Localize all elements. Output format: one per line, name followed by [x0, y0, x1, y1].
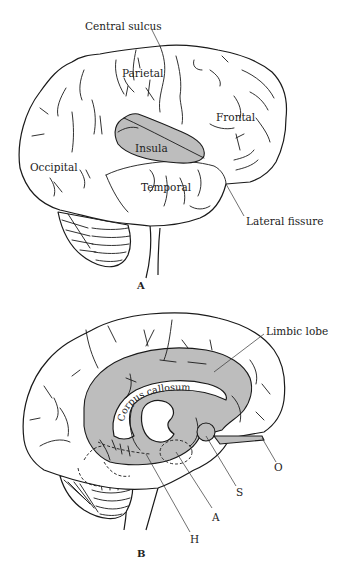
brainstem: [146, 225, 160, 278]
septum-circle: [197, 423, 215, 441]
lateral-brain-drawing: [0, 0, 337, 290]
label-occipital: Occipital: [30, 162, 78, 173]
label-limbic-lobe: Limbic lobe: [266, 326, 328, 337]
label-frontal: Frontal: [216, 112, 255, 123]
label-a: A: [212, 512, 220, 523]
label-central-sulcus: Central sulcus: [85, 21, 162, 32]
thalamus-area: [141, 400, 174, 442]
central-sulcus-leader: [152, 30, 160, 46]
o-leader: [262, 438, 276, 462]
label-insula: Insula: [135, 143, 168, 154]
label-o: O: [274, 462, 283, 473]
figure-b-medial-brain: Corpus callosum Limbic lobe O S A H B: [0, 290, 337, 562]
label-lateral-fissure: Lateral fissure: [246, 216, 323, 227]
olfactory-tract: [214, 436, 264, 444]
figure-a-lateral-brain: Central sulcus Parietal Frontal Insula O…: [0, 0, 337, 290]
lateral-fissure-leader: [226, 184, 244, 216]
label-h: H: [190, 534, 199, 545]
label-s: S: [236, 487, 243, 498]
label-temporal: Temporal: [141, 182, 191, 193]
label-parietal: Parietal: [122, 68, 163, 79]
panel-label-b: B: [137, 548, 145, 559]
